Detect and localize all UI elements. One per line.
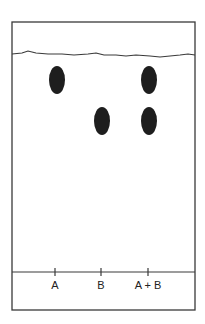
spot [141,107,157,135]
lane-label: A [51,279,59,291]
plate-outline [12,22,195,310]
lane-b: B [94,107,110,291]
spot [94,107,110,135]
solvent-front-line [12,51,195,57]
lane-ab: A + B [135,66,162,291]
lane-a: A [49,66,65,291]
spot [141,66,157,94]
lane-label: A + B [135,279,162,291]
lanes-group: ABA + B [49,66,161,291]
spot [49,66,65,94]
lane-label: B [97,279,104,291]
tlc-plate-diagram: ABA + B [0,0,205,324]
